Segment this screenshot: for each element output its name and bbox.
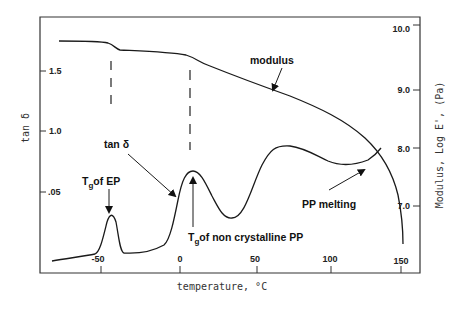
anno-tg-pp: Tgof non crystalline PP [188,231,303,246]
y-right-axis-title: Modulus, Log E', (Pa) [434,82,445,208]
anno-tan-delta-arrow [128,154,175,196]
anno-tg-ep: Tgof EP [82,175,120,190]
anno-pp-melting-arrow [329,170,364,190]
y-right-tick-2: 9.0 [397,85,410,95]
x-tick-5: 150 [393,256,408,266]
y-left-tick-2: 1.0 [49,126,62,136]
left-axis: 1.5 1.0 .05 tan δ [20,66,62,197]
anno-modulus: modulus [250,54,294,66]
anno-pp-melting: PP melting [302,198,356,210]
x-tick-4: 100 [322,254,337,264]
right-axis: 10.0 9.0 8.0 7.0 Modulus, Log E', (Pa) [392,24,445,211]
y-left-tick-3: .05 [48,187,61,197]
x-tick-3: 50 [250,254,260,264]
anno-tan-delta: tan δ [104,138,129,150]
y-left-axis-title: tan δ [20,113,31,143]
anno-modulus-arrow [273,68,282,90]
x-axis-title: temperature, °C [177,281,267,292]
y-left-tick-1: 1.5 [49,66,62,76]
dma-chart: 1.5 1.0 .05 tan δ 10.0 9.0 8.0 7.0 Modul… [0,0,460,309]
x-tick-1: -50 [91,254,104,264]
y-right-tick-3: 8.0 [397,144,410,154]
y-right-tick-1: 10.0 [392,24,410,34]
x-tick-2: 0 [177,254,182,264]
